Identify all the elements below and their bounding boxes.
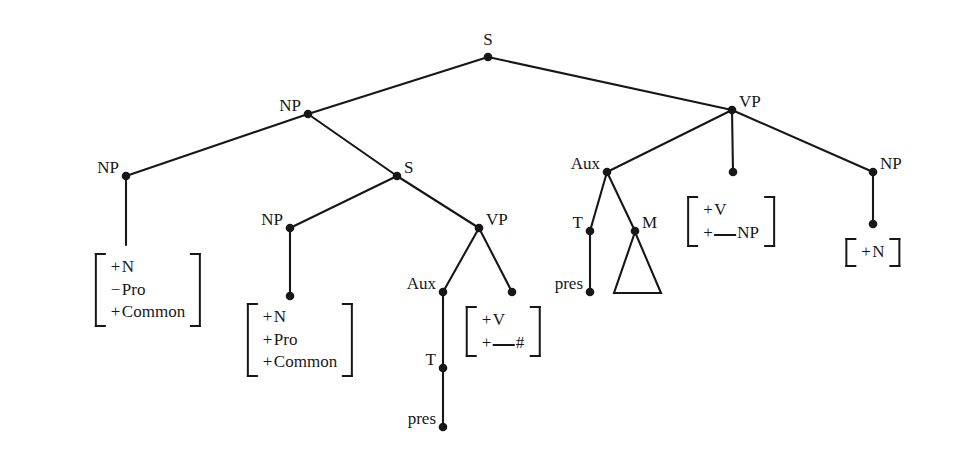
tree-node-dot [869, 168, 878, 177]
feature-name: N [872, 242, 884, 261]
feature-row: +Common [263, 351, 337, 374]
feature-name: N [274, 307, 286, 326]
tree-edge [607, 110, 732, 172]
feature-sign: − [111, 279, 122, 302]
node-label-vp-matrix: VP [739, 93, 761, 110]
feature-sign: + [263, 306, 274, 329]
feature-sign: + [703, 199, 714, 222]
matrix-rows: +N [856, 238, 889, 267]
feature-sign: + [482, 309, 493, 332]
feature-sign: + [861, 241, 872, 264]
matrix-rows: +N+Pro+Common [258, 303, 342, 377]
bracket-left-icon [247, 303, 258, 377]
tree-node-dot [475, 224, 484, 233]
node-label-t-left: T [426, 351, 436, 368]
matrix-np-right: +N [845, 238, 900, 267]
feature-sign: + [703, 222, 714, 245]
feature-blank-slot [493, 344, 515, 346]
tree-node-dot [586, 227, 595, 236]
tree-node-dot [603, 168, 612, 177]
feature-row: +N [861, 241, 884, 264]
tree-edge [308, 114, 397, 176]
matrix-v-embedded: +V+# [466, 306, 541, 357]
tree-node-dot [484, 53, 493, 62]
node-label-np-right: NP [880, 155, 902, 172]
node-label-np-upper: NP [279, 97, 301, 114]
bracket-left-icon [95, 253, 106, 327]
feature-name: N [122, 257, 134, 276]
tree-edge [290, 176, 397, 228]
feature-name: Common [122, 302, 185, 321]
tree-node-dot [439, 288, 448, 297]
feature-row: +# [482, 332, 525, 355]
tree-node-dot [728, 106, 737, 115]
feature-row: +N [111, 256, 185, 279]
feature-row: +NP [703, 222, 759, 245]
node-label-m-right: M [642, 214, 657, 231]
tree-node-dot [869, 220, 878, 229]
feature-name: # [516, 333, 525, 352]
bracket-right-icon [529, 306, 540, 357]
tree-node-dot [631, 227, 640, 236]
tree-edge [607, 172, 635, 231]
tree-node-dot [286, 292, 295, 301]
tree-edge [308, 57, 488, 114]
tree-edge [397, 176, 479, 228]
feature-sign: + [111, 256, 122, 279]
syntax-tree-diagram: SNPVPNPSAuxNPNPVPTMAuxpresTpres +N−Pro+C… [0, 0, 963, 462]
feature-sign: + [263, 351, 274, 374]
matrix-v-matrix: +V+NP [687, 196, 775, 247]
tree-node-dot [439, 423, 448, 432]
tree-edge [488, 57, 732, 110]
bracket-right-icon [190, 253, 201, 327]
tree-node-dot [439, 364, 448, 373]
feature-row: +V [703, 199, 759, 222]
bracket-left-icon [687, 196, 698, 247]
node-label-pres-right: pres [555, 275, 583, 292]
node-label-aux-right: Aux [571, 155, 600, 172]
bracket-right-icon [764, 196, 775, 247]
node-label-pres-left: pres [408, 410, 436, 427]
feature-row: −Pro [111, 279, 185, 302]
node-label-vp-embedded: VP [486, 211, 508, 228]
matrix-rows: +V+# [477, 306, 530, 357]
tree-edge [590, 172, 607, 231]
feature-row: +V [482, 309, 525, 332]
feature-sign: + [111, 301, 122, 324]
tree-edge [479, 228, 512, 292]
tree-edge [732, 110, 873, 172]
feature-name: Pro [274, 330, 298, 349]
feature-name: NP [737, 223, 759, 242]
tree-node-dot [286, 224, 295, 233]
bracket-right-icon [342, 303, 353, 377]
matrix-np-left: +N−Pro+Common [95, 253, 201, 327]
bracket-right-icon [890, 238, 901, 267]
tree-node-dot [729, 168, 738, 177]
feature-blank-slot [714, 234, 736, 236]
node-label-t-right: T [573, 214, 583, 231]
tree-node-dot [304, 110, 313, 119]
feature-sign: + [482, 332, 493, 355]
node-label-np-left: NP [97, 159, 119, 176]
node-label-s-root: S [483, 31, 492, 48]
tree-node-dot [508, 288, 517, 297]
matrix-rows: +N−Pro+Common [106, 253, 190, 327]
tree-edge [126, 114, 308, 176]
bracket-left-icon [845, 238, 856, 267]
feature-name: Common [274, 352, 337, 371]
matrix-rows: +V+NP [698, 196, 764, 247]
m-expansion-triangle [614, 232, 661, 293]
node-label-aux-left: Aux [407, 275, 436, 292]
feature-row: +Common [111, 301, 185, 324]
tree-node-dot [586, 288, 595, 297]
tree-node-dot [393, 172, 402, 181]
node-label-s-embedded: S [404, 159, 413, 176]
tree-edge [732, 110, 733, 172]
matrix-np-inner: +N+Pro+Common [247, 303, 353, 377]
node-label-np-inner: NP [261, 211, 283, 228]
feature-name: V [493, 310, 505, 329]
tree-edges-layer [0, 0, 963, 462]
feature-name: Pro [122, 280, 146, 299]
feature-sign: + [263, 329, 274, 352]
feature-row: +N [263, 306, 337, 329]
